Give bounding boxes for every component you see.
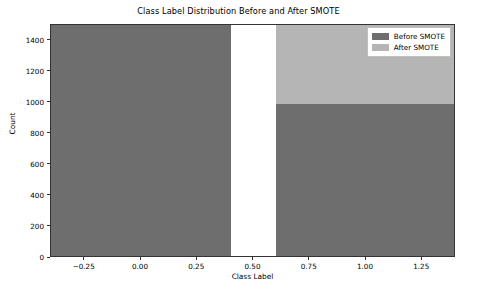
x-tick-label: 1.00: [357, 262, 373, 271]
legend-label-before-smote: Before SMOTE: [394, 32, 445, 41]
legend-swatch-before-smote: [372, 33, 389, 40]
bar-segment-before-smote: [51, 25, 231, 256]
y-tick-label: 200: [30, 222, 44, 231]
x-tick-mark: [252, 257, 253, 260]
x-axis-label: Class Label: [50, 272, 455, 281]
bar-column: [276, 25, 455, 256]
x-tick-label: 1.25: [413, 262, 429, 271]
legend-swatch-after-smote: [372, 44, 389, 51]
chart-title: Class Label Distribution Before and Afte…: [0, 6, 477, 16]
x-tick-label: 0.50: [244, 262, 260, 271]
y-tick-label: 1200: [26, 67, 44, 76]
x-tick-label: 0.75: [301, 262, 317, 271]
legend-label-after-smote: After SMOTE: [394, 43, 439, 52]
bar-segment-before-smote: [276, 104, 455, 256]
x-tick-label: 0.00: [132, 262, 148, 271]
y-tick-label: 800: [30, 129, 44, 138]
x-tick-mark: [83, 257, 84, 260]
y-tick-label: 0: [39, 253, 44, 262]
chart-legend: Before SMOTE After SMOTE: [367, 27, 451, 57]
x-tick-label: 0.25: [188, 262, 204, 271]
x-tick-mark: [365, 257, 366, 260]
legend-item-before-smote: Before SMOTE: [372, 31, 445, 42]
chart-figure: Class Label Distribution Before and Afte…: [0, 0, 477, 291]
plot-area: Before SMOTE After SMOTE: [50, 24, 455, 257]
bar-column: [51, 25, 231, 256]
x-tick-mark: [308, 257, 309, 260]
y-tick-label: 1000: [26, 98, 44, 107]
y-tick-label: 600: [30, 160, 44, 169]
x-tick-mark: [140, 257, 141, 260]
y-tick-label: 400: [30, 191, 44, 200]
y-tick-label: 1400: [26, 36, 44, 45]
y-axis-label: Count: [8, 64, 17, 184]
legend-item-after-smote: After SMOTE: [372, 42, 445, 53]
x-tick-label: −0.25: [73, 262, 95, 271]
x-tick-mark: [196, 257, 197, 260]
x-tick-mark: [421, 257, 422, 260]
